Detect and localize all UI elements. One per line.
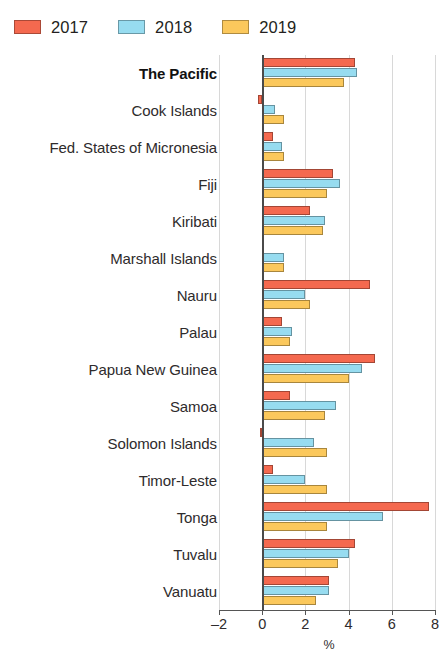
chart-legend: 201720182019: [0, 10, 439, 44]
category-label: Papua New Guinea: [89, 351, 218, 388]
bar-2018: [262, 438, 314, 447]
bar-group: [219, 425, 439, 462]
bar-2017: [262, 539, 355, 548]
chart-row: Cook Islands: [0, 92, 439, 129]
bar-2019: [262, 263, 284, 272]
bar-2017: [262, 58, 355, 67]
bar-group: [219, 314, 439, 351]
x-tick-label: 8: [431, 616, 439, 632]
bar-2017: [258, 95, 262, 104]
chart-row: The Pacific: [0, 55, 439, 92]
bar-2017: [262, 132, 273, 141]
x-tick-label: 0: [258, 616, 266, 632]
chart-row: Solomon Islands: [0, 425, 439, 462]
bar-2019: [262, 374, 348, 383]
bar-group: [219, 277, 439, 314]
chart-row: Tuvalu: [0, 536, 439, 573]
chart-row: Vanuatu: [0, 573, 439, 610]
chart-row: Papua New Guinea: [0, 351, 439, 388]
bar-2019: [262, 596, 316, 605]
bar-group: [219, 536, 439, 573]
bar-2019: [262, 411, 325, 420]
legend-swatch-2017: [14, 20, 41, 34]
legend-item-2018: 2018: [118, 18, 192, 37]
bar-2018: [262, 364, 361, 373]
category-label: The Pacific: [139, 55, 217, 92]
bar-group: [219, 55, 439, 92]
x-tick-mark: [219, 610, 220, 615]
bar-group: [219, 240, 439, 277]
bar-2019: [262, 522, 327, 531]
bar-group: [219, 166, 439, 203]
x-tick-label: 6: [388, 616, 396, 632]
bar-2017: [262, 391, 290, 400]
legend-label-2019: 2019: [259, 18, 296, 37]
category-label: Timor-Leste: [139, 462, 217, 499]
category-label: Tuvalu: [173, 536, 217, 573]
bar-2019: [262, 485, 327, 494]
chart-row: Tonga: [0, 499, 439, 536]
bar-group: [219, 499, 439, 536]
x-tick-label: 2: [301, 616, 309, 632]
bar-2017: [262, 206, 310, 215]
bar-2018: [262, 68, 357, 77]
x-tick-label: –2: [211, 616, 227, 632]
legend-item-2019: 2019: [222, 18, 296, 37]
chart-row: Kiribati: [0, 203, 439, 240]
legend-swatch-2018: [118, 20, 145, 34]
pacific-growth-bar-chart: 201720182019 The PacificCook IslandsFed.…: [0, 0, 439, 664]
bar-2018: [262, 142, 281, 151]
legend-item-2017: 2017: [14, 18, 88, 37]
chart-row: Nauru: [0, 277, 439, 314]
x-tick-mark: [392, 610, 393, 615]
category-label: Samoa: [170, 388, 217, 425]
legend-swatch-2019: [222, 20, 249, 34]
bar-group: [219, 388, 439, 425]
bar-2018: [262, 290, 305, 299]
category-label: Fed. States of Micronesia: [49, 129, 217, 166]
bar-2019: [262, 115, 284, 124]
bar-2017: [262, 576, 329, 585]
chart-row: Fiji: [0, 166, 439, 203]
bar-group: [219, 462, 439, 499]
category-label: Vanuatu: [163, 573, 217, 610]
bar-2018: [262, 401, 335, 410]
bar-2018: [262, 105, 275, 114]
chart-row: Marshall Islands: [0, 240, 439, 277]
category-label: Solomon Islands: [108, 425, 217, 462]
x-tick-mark: [305, 610, 306, 615]
x-tick-mark: [262, 610, 263, 615]
bar-group: [219, 203, 439, 240]
legend-label-2017: 2017: [51, 18, 88, 37]
category-label: Cook Islands: [131, 92, 217, 129]
bar-2018: [262, 475, 305, 484]
x-tick-label: 4: [345, 616, 353, 632]
category-label: Fiji: [198, 166, 217, 203]
x-axis-line: [219, 610, 435, 611]
x-axis-title: %: [219, 638, 439, 652]
bar-2019: [262, 78, 344, 87]
bar-2018: [262, 253, 284, 262]
bar-2019: [262, 226, 322, 235]
plot-area: The PacificCook IslandsFed. States of Mi…: [0, 55, 439, 630]
bar-2017: [262, 502, 428, 511]
category-rows: The PacificCook IslandsFed. States of Mi…: [0, 55, 439, 610]
bar-2019: [262, 189, 327, 198]
bar-2018: [262, 586, 329, 595]
bar-2019: [262, 559, 338, 568]
bar-2018: [262, 549, 348, 558]
category-label: Palau: [179, 314, 217, 351]
bar-2017: [262, 465, 273, 474]
bar-group: [219, 351, 439, 388]
bar-2019: [262, 152, 284, 161]
bar-2019: [262, 300, 310, 309]
legend-label-2018: 2018: [155, 18, 192, 37]
chart-row: Samoa: [0, 388, 439, 425]
bar-2019: [262, 337, 290, 346]
bar-group: [219, 573, 439, 610]
bar-2019: [262, 448, 327, 457]
x-tick-mark: [435, 610, 436, 615]
chart-row: Fed. States of Micronesia: [0, 129, 439, 166]
bar-2018: [262, 327, 292, 336]
chart-row: Timor-Leste: [0, 462, 439, 499]
